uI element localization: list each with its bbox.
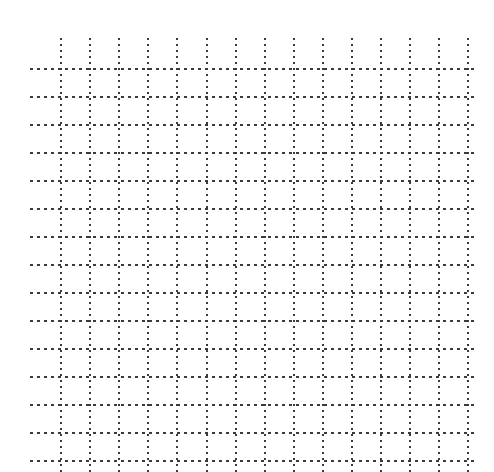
grid-line-vertical — [235, 38, 237, 472]
grid-line-horizontal — [30, 124, 478, 126]
grid-line-horizontal — [30, 180, 478, 182]
grid-line-vertical — [380, 38, 382, 472]
grid-line-vertical — [322, 38, 324, 472]
grid-line-vertical — [206, 38, 208, 472]
grid-line-vertical — [176, 38, 178, 472]
grid-line-vertical — [438, 38, 440, 472]
grid-line-horizontal — [30, 152, 478, 154]
grid-line-vertical — [351, 38, 353, 472]
grid-line-vertical — [409, 38, 411, 472]
grid-line-vertical — [60, 38, 62, 472]
grid-line-vertical — [118, 38, 120, 472]
grid-line-horizontal — [30, 348, 478, 350]
grid-line-horizontal — [30, 96, 478, 98]
grid-line-vertical — [467, 38, 469, 472]
grid-line-horizontal — [30, 320, 478, 322]
grid-line-horizontal — [30, 376, 478, 378]
grid-line-horizontal — [30, 264, 478, 266]
grid-line-horizontal — [30, 432, 478, 434]
grid-line-horizontal — [30, 292, 478, 294]
grid-line-vertical — [264, 38, 266, 472]
grid-canvas — [0, 0, 494, 472]
grid-line-horizontal — [30, 460, 478, 462]
grid-line-vertical — [293, 38, 295, 472]
grid-line-horizontal — [30, 236, 478, 238]
grid-line-vertical — [89, 38, 91, 472]
grid-line-horizontal — [30, 208, 478, 210]
grid-line-vertical — [147, 38, 149, 472]
dotted-grid — [0, 0, 494, 472]
grid-line-horizontal — [30, 404, 478, 406]
grid-line-horizontal — [30, 68, 478, 70]
